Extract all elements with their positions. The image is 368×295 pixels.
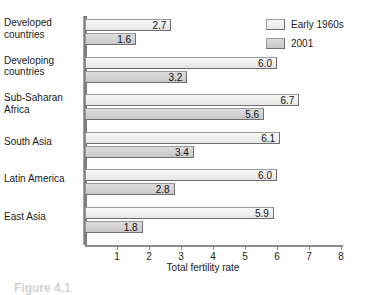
x-axis-tick [213,245,214,250]
x-axis-tick [149,245,150,250]
legend-item: Early 1960s [266,16,366,32]
category-label: Latin America [4,173,80,185]
legend-swatch-icon [266,38,285,49]
bar-value-label: 6.1 [261,133,275,145]
bar-value-label: 1.6 [117,34,131,46]
bar-value-label: 2.8 [156,184,170,196]
chart-legend: Early 1960s 2001 [266,16,366,54]
bar-value-label: 5.9 [255,208,269,220]
bar-value-label: 6.0 [258,170,272,182]
x-axis-tick-label: 4 [203,251,223,262]
x-axis-tick-label: 7 [299,251,319,262]
x-axis-tick [309,245,310,250]
bar: 6.1 [85,132,280,144]
bar-value-label: 6.7 [280,95,294,107]
x-axis-tick [277,245,278,250]
legend-swatch-icon [266,19,285,30]
bar-value-label: 3.4 [175,147,189,159]
bar-value-label: 5.6 [245,109,259,121]
category-label: Developedcountries [4,17,80,40]
bar: 1.8 [85,221,143,233]
x-axis-tick-label: 8 [331,251,351,262]
bar-value-label: 1.8 [124,222,138,234]
bar-value-label: 6.0 [258,58,272,70]
bar: 2.7 [85,19,171,31]
x-axis-tick [341,245,342,250]
x-axis-line [85,245,343,247]
x-axis-tick-label: 3 [171,251,191,262]
cropped-caption-remnant: Figure 4.1 [14,281,71,295]
legend-label: Early 1960s [291,19,344,30]
x-axis-tick-label: 2 [139,251,159,262]
category-label: Sub-SaharanAfrica [4,92,80,115]
bar: 3.2 [85,71,187,83]
x-axis-title: Total fertility rate [0,262,368,273]
bar: 6.7 [85,94,299,106]
category-label: South Asia [4,136,80,148]
x-axis-tick-label: 5 [235,251,255,262]
cropped-title-remnant [95,0,275,2]
category-label: Developingcountries [4,55,80,78]
bar: 6.0 [85,57,277,69]
bar: 5.9 [85,207,274,219]
legend-label: 2001 [291,38,313,49]
bar: 2.8 [85,183,175,195]
bar: 1.6 [85,33,136,45]
bar-value-label: 3.2 [168,72,182,84]
category-label: East Asia [4,211,80,223]
x-axis-tick-label: 6 [267,251,287,262]
x-axis-tick [117,245,118,250]
legend-item: 2001 [266,35,366,51]
bar: 5.6 [85,108,264,120]
x-axis-tick [181,245,182,250]
x-axis-tick-label: 1 [107,251,127,262]
bar: 3.4 [85,146,194,158]
bar-value-label: 2.7 [152,20,166,32]
bar: 6.0 [85,169,277,181]
x-axis-tick [245,245,246,250]
